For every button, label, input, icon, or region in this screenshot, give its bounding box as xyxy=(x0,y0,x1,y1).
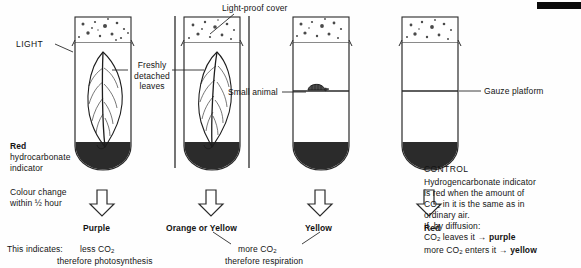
gauze-platform-label: Gauze platform xyxy=(484,86,544,97)
more-co2-subscript: 2 xyxy=(273,248,276,254)
more-co2-label: more CO2 xyxy=(238,244,277,257)
control-co2-text: CO xyxy=(424,199,437,209)
control-line-6-mid: leaves it xyxy=(440,232,477,242)
diagram-canvas: LIGHT Light-proof cover Freshly detached… xyxy=(0,0,581,268)
control-line-6-co2: CO xyxy=(424,232,437,242)
yellow-diagonal xyxy=(302,232,320,244)
control-line-5: If, by diffusion: xyxy=(424,221,480,232)
light-leader-line xyxy=(55,44,73,52)
colour-change-label: Colour change within ½ hour xyxy=(10,187,67,208)
control-line-4: ordinary air. xyxy=(424,210,470,221)
freshly-detached-leaves-label: Freshly detached leaves xyxy=(131,60,173,92)
control-line-7-arrow-icon: → xyxy=(499,245,508,255)
control-heading: CONTROL xyxy=(424,164,468,175)
light-label: LIGHT xyxy=(16,39,43,50)
light-proof-cover-label: Light-proof cover xyxy=(222,3,287,14)
more-co2-text: more CO xyxy=(238,244,273,254)
control-line-7-co2: more CO xyxy=(424,245,459,255)
control-line-6: CO2 leaves it →purple xyxy=(424,232,516,245)
orange-yellow-diagonal xyxy=(213,232,231,244)
light-proof-cover-leader-line xyxy=(210,14,234,34)
control-line-6-arrow-icon: → xyxy=(477,232,486,242)
therefore-respiration-label: therefore respiration xyxy=(225,256,303,267)
control-line-7: more CO2 enters it →yellow xyxy=(424,245,537,258)
red-indicator-subtext: hydrocarbonate indicator xyxy=(10,152,70,173)
control-line-2: is red when the amount of xyxy=(424,188,524,199)
less-co2-label: less CO2 xyxy=(80,244,114,257)
less-co2-subscript: 2 xyxy=(111,248,114,254)
this-indicates-label: This indicates: xyxy=(7,244,63,255)
therefore-photosynthesis-label: therefore photosynthesis xyxy=(57,256,153,267)
tube-3-result-label: Yellow xyxy=(305,223,332,234)
red-indicator-heading: Red xyxy=(10,141,26,152)
tube-2-result-label: Orange or Yellow xyxy=(166,223,237,234)
control-line-6-result: purple xyxy=(489,232,516,242)
control-line-3-rest: in it is the same as in xyxy=(440,199,524,209)
control-line-7-result: yellow xyxy=(510,245,537,255)
less-co2-text: less CO xyxy=(80,244,111,254)
small-animal-label: Small animal xyxy=(228,87,278,98)
control-line-1: Hydrogencarbonate indicator xyxy=(424,177,536,188)
tube-1-result-label: Purple xyxy=(83,223,110,234)
control-line-7-mid: enters it xyxy=(463,245,499,255)
